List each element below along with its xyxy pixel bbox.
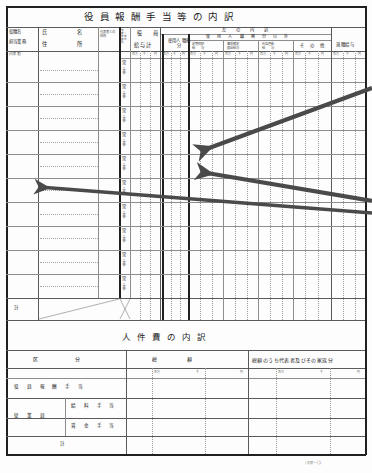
table-row[interactable] bbox=[6, 82, 365, 106]
bottom-unit-b-yen: 円 bbox=[357, 371, 360, 374]
bottom-header-uchi-daihyousha: 総額のうち代表者及びその家族分 bbox=[252, 358, 333, 363]
top-table-total-label: 計 bbox=[14, 306, 19, 311]
igai-group-rule bbox=[188, 40, 332, 41]
page-border-right bbox=[365, 6, 367, 455]
bottom-col-rule-kubun-sougaku bbox=[126, 350, 127, 454]
bottom-row-label-kyuuryou-teate: 給 料 手 当 bbox=[71, 404, 116, 409]
unit-igai2-thousand: 千 bbox=[273, 53, 276, 56]
table-row[interactable] bbox=[6, 178, 365, 202]
header-yakuin-kyuyokei: 給与計 bbox=[134, 43, 152, 48]
page-border-bottom bbox=[6, 454, 366, 456]
unit-shiyounin-yen: 円 bbox=[182, 53, 185, 56]
joukin-hijoukin-cell[interactable]: 常・非 bbox=[121, 84, 125, 104]
header-yakuin-group: 役 員 bbox=[137, 31, 161, 36]
unit-igai3-thousand: 千 bbox=[308, 53, 311, 56]
unit-shiyounin-million: 百万 bbox=[163, 53, 169, 56]
unit-igai1-million: 百万 bbox=[225, 53, 231, 56]
bottom-row-rule-3 bbox=[6, 436, 365, 437]
table-row[interactable] bbox=[6, 130, 365, 154]
joukin-hijoukin-cell[interactable]: 常・非 bbox=[121, 204, 125, 224]
unit-igai1-yen: 円 bbox=[250, 53, 253, 56]
table-row[interactable] bbox=[6, 250, 365, 274]
joukin-hijoukin-cell[interactable]: 常・非 bbox=[121, 132, 125, 152]
top-table-header-top-rule bbox=[6, 27, 365, 28]
joukin-hijoukin-cell[interactable]: 常・非 bbox=[121, 156, 125, 176]
unit-shiyounin-thousand: 千 bbox=[173, 53, 176, 56]
header-juusho: 住 所 bbox=[42, 42, 84, 47]
unit-igai0-yen: 円 bbox=[215, 53, 218, 56]
unit-igai2-yen: 円 bbox=[285, 53, 288, 56]
bottom-unit-a-thousand: 千 bbox=[196, 371, 199, 374]
bottom-row-rule-1 bbox=[6, 398, 365, 399]
bottom-col-rule-juugyouin-sub bbox=[65, 398, 66, 436]
header-tantougyoumu: 担当業務 bbox=[9, 40, 26, 44]
bottom-unit-a-yen: 円 bbox=[240, 371, 243, 374]
bottom-col-rule-sougaku-uchi bbox=[248, 350, 249, 454]
table-row[interactable] bbox=[6, 202, 365, 226]
joukin-hijoukin-cell[interactable]: 常・非 bbox=[121, 228, 125, 248]
unit-igai0-thousand: 千 bbox=[203, 53, 206, 56]
joukin-hijoukin-cell[interactable]: 常・非 bbox=[121, 276, 125, 296]
header-daihyousha-mark: (代表者) bbox=[9, 53, 21, 56]
unit-taishoku-million: 百万 bbox=[333, 53, 339, 56]
unit-yakuin-thousand: 千 bbox=[143, 53, 146, 56]
top-table-bottom-rule bbox=[6, 320, 365, 321]
header-taishoku-kyuyo: 退職給与 bbox=[336, 43, 354, 47]
bottom-row-label-yakuin-houshuu: 役 員 報 酬 手 当 bbox=[14, 385, 84, 390]
footer-form-code: (別表一〇) bbox=[305, 462, 321, 465]
header-shiyounin-igai-group: 使 用 人 職 務 分 以 外 bbox=[206, 35, 290, 39]
page-title-bottom: 人件費の内訳 bbox=[122, 333, 212, 342]
joukin-hijoukin-cell[interactable]: 常・非 bbox=[121, 108, 125, 128]
bottom-table-unit-rule bbox=[6, 378, 365, 379]
unit-yakuin-yen: 円 bbox=[154, 53, 157, 56]
bottom-money-guide-a2 bbox=[205, 368, 206, 454]
bottom-money-guide-b1 bbox=[276, 368, 277, 454]
unit-igai3-million: 百万 bbox=[295, 53, 301, 56]
bottom-header-kubun: 区 分 bbox=[33, 357, 82, 362]
bottom-money-guide-a1 bbox=[152, 368, 153, 454]
top-table-total-rule bbox=[6, 298, 365, 299]
page-border-top bbox=[6, 6, 366, 8]
unit-igai1-thousand: 千 bbox=[238, 53, 241, 56]
bottom-unit-b-thousand: 千 bbox=[320, 371, 323, 374]
bottom-money-guide-b2 bbox=[330, 368, 331, 454]
table-row[interactable] bbox=[6, 274, 365, 298]
joukin-hijoukin-cell[interactable]: 常・非 bbox=[121, 252, 125, 272]
header-hidari-no-uchiwake: 左 の 内 訳 bbox=[222, 28, 271, 32]
joukin-hijoukin-cell[interactable]: 常・非 bbox=[121, 180, 125, 200]
bottom-header-sougaku: 総 額 bbox=[152, 357, 194, 362]
bottom-unit-b-million: 百万 bbox=[278, 371, 284, 374]
unit-igai0-million: 百万 bbox=[190, 53, 196, 56]
header-igai-col-3: そ の 他 bbox=[300, 44, 325, 48]
joukin-hijoukin-cell[interactable]: 常・非 bbox=[121, 60, 125, 80]
bottom-table-header-rule bbox=[6, 368, 365, 369]
table-row[interactable] bbox=[6, 58, 365, 82]
bottom-row-rule-2 bbox=[6, 418, 365, 419]
top-table-header-bottom-rule bbox=[6, 51, 365, 52]
header-joukin-kubun: 常勤・非常勤の別 bbox=[121, 30, 130, 45]
page-title-top: 役員報酬手当等の内訳 bbox=[84, 12, 239, 22]
document-page: 役員報酬手当等の内訳 役職名 担当業務 (代表者) 氏 名 住 所 代表者との関… bbox=[0, 0, 372, 473]
unit-taishoku-thousand: 千 bbox=[346, 53, 349, 56]
unit-igai2-million: 百万 bbox=[260, 53, 266, 56]
bottom-row-label-chingin-teate: 賃 金 手 当 bbox=[71, 424, 116, 429]
bottom-table-top-rule bbox=[6, 350, 365, 351]
unit-igai3-yen: 円 bbox=[321, 53, 324, 56]
bottom-row-group-juugyouin: 従 業 員 bbox=[14, 414, 46, 419]
header-igai-col-2: 利益連動 給 与 bbox=[262, 42, 288, 50]
table-row[interactable] bbox=[6, 226, 365, 250]
header-yakushokumei: 役職名 bbox=[9, 30, 22, 34]
unit-taishoku-yen: 円 bbox=[358, 53, 361, 56]
unit-yakuin-million: 百万 bbox=[132, 53, 138, 56]
table-row[interactable] bbox=[6, 106, 365, 130]
table-row[interactable] bbox=[6, 154, 365, 178]
header-igai-col-1: 事前確定 届出給与 bbox=[227, 42, 253, 50]
header-kankei: 代表者との関係 bbox=[100, 31, 118, 38]
bottom-row-label-total: 計 bbox=[60, 442, 65, 447]
bottom-unit-a-million: 百万 bbox=[154, 371, 160, 374]
header-shimei: 氏 名 bbox=[42, 30, 84, 35]
header-igai-col-0: 定期同額 給 与 bbox=[192, 42, 218, 50]
